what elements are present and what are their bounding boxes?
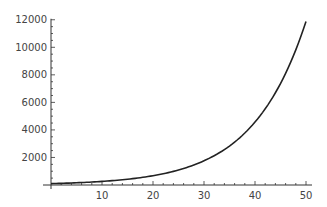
y-tick-label: 2000 (22, 152, 47, 163)
x-tick-label: 10 (96, 190, 109, 201)
x-tick-label: 30 (198, 190, 211, 201)
x-tick-label: 40 (249, 190, 262, 201)
line-chart: 102030405020004000600080001000012000 (0, 0, 327, 207)
axes (43, 19, 312, 189)
x-tick-label: 20 (147, 190, 160, 201)
y-tick-label: 4000 (22, 124, 47, 135)
data-line (51, 21, 306, 183)
y-tick-label: 6000 (22, 97, 47, 108)
x-tick-label: 50 (300, 190, 313, 201)
y-tick-label: 8000 (22, 69, 47, 80)
y-tick-label: 10000 (15, 42, 47, 53)
axis-ticks (51, 20, 306, 185)
y-tick-label: 12000 (15, 14, 47, 25)
